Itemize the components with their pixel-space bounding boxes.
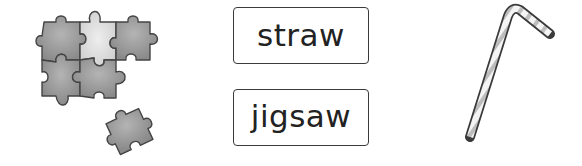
word-card-jigsaw[interactable]: jigsaw — [233, 89, 369, 146]
word-label: jigsaw — [251, 98, 351, 134]
word-card-straw[interactable]: straw — [233, 7, 369, 64]
straw-icon — [440, 0, 582, 166]
jigsaw-puzzle-icon — [0, 0, 200, 166]
word-label: straw — [257, 17, 345, 53]
